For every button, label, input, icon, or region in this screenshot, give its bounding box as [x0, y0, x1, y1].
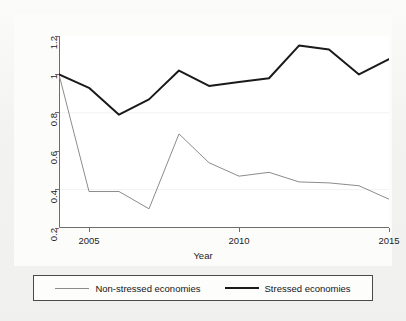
x-axis-tick-label: 2015: [378, 235, 399, 246]
graph-region: 0.20.40.60.811.2 200520102015 Year: [14, 14, 392, 266]
legend-item-non-stressed: Non-stressed economies: [55, 283, 200, 294]
y-axis-tick-label: 0.4: [49, 190, 59, 203]
x-axis-tick-label: 2010: [228, 235, 249, 246]
y-axis-tick-labels: 0.20.40.60.811.2: [32, 14, 54, 266]
legend-line-icon-stressed: [225, 287, 259, 289]
x-axis-tick-label: 2005: [78, 235, 99, 246]
legend: Non-stressed economies Stressed economie…: [33, 275, 373, 301]
y-axis-tick-label: 1: [49, 74, 59, 79]
x-axis-title: Year: [14, 250, 392, 261]
y-axis-tick-label: 0.8: [49, 113, 59, 126]
x-axis-tick: [389, 228, 390, 232]
y-axis-tick-label: 0.6: [49, 151, 59, 164]
series-line-non-stressed: [59, 74, 389, 208]
axis-spines: [60, 36, 390, 228]
plot-area: [59, 36, 389, 228]
legend-line-icon-non-stressed: [55, 288, 89, 289]
legend-item-stressed: Stressed economies: [225, 283, 351, 294]
legend-label-non-stressed: Non-stressed economies: [95, 283, 200, 294]
y-axis-tick-label: 1.2: [49, 36, 59, 49]
series-line-stressed: [59, 46, 389, 115]
x-axis-tick: [239, 228, 240, 232]
plot-lines: [59, 36, 389, 228]
legend-label-stressed: Stressed economies: [265, 283, 351, 294]
figure: 0.20.40.60.811.2 200520102015 Year Non-s…: [0, 0, 406, 321]
x-axis-tick: [89, 228, 90, 232]
